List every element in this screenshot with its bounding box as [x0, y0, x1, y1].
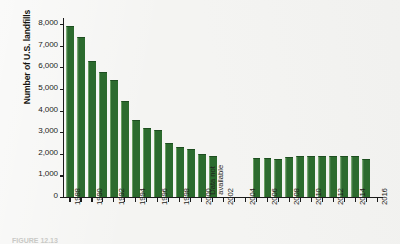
- y-tick-mark: [60, 154, 64, 155]
- x-tick-2014: [355, 198, 356, 202]
- landfills-bar-chart: Number of U.S. landfills 01,0002,0003,00…: [0, 0, 400, 244]
- x-tick-2004: [245, 198, 246, 202]
- x-tick-1998: [179, 198, 180, 202]
- x-tick-2015: [366, 198, 367, 202]
- x-tick-2003: [234, 198, 235, 202]
- x-tick-2000: [201, 198, 202, 202]
- x-tick-2005: [256, 198, 257, 202]
- y-tick-mark: [60, 111, 64, 112]
- y-tick-label: 2,000: [38, 148, 58, 157]
- y-tick-mark: [60, 89, 64, 90]
- y-tick-mark: [60, 24, 64, 25]
- bar-1995: [143, 128, 151, 197]
- y-tick-label: 7,000: [38, 40, 58, 49]
- bar-1991: [99, 72, 107, 197]
- x-tick-1993: [124, 198, 125, 202]
- y-tick-mark: [60, 175, 64, 176]
- x-tick-2012: [333, 198, 334, 202]
- x-tick-1990: [91, 198, 92, 202]
- y-tick-mark: [60, 132, 64, 133]
- plot-area: 01,0002,0003,0004,0005,0006,0007,0008,00…: [64, 18, 382, 197]
- x-tick-1989: [80, 198, 81, 202]
- figure-caption: FIGURE 12.13: [12, 237, 58, 244]
- x-tick-2006: [267, 198, 268, 202]
- annotation-line: available: [218, 165, 226, 195]
- y-axis-title: Number of U.S. landfills: [22, 0, 32, 142]
- y-tick-label: 0: [54, 191, 58, 200]
- x-tick-2008: [289, 198, 290, 202]
- bar-1993: [121, 101, 129, 197]
- x-tick-2013: [344, 198, 345, 202]
- y-tick-mark: [60, 197, 64, 198]
- y-tick-label: 5,000: [38, 83, 58, 92]
- y-tick-mark: [60, 67, 64, 68]
- x-tick-1995: [146, 198, 147, 202]
- x-tick-1994: [135, 198, 136, 202]
- bar-1996: [154, 130, 162, 197]
- x-tick-1988: [69, 198, 70, 202]
- x-tick-1999: [190, 198, 191, 202]
- y-tick-label: 6,000: [38, 61, 58, 70]
- x-tick-label-2016: 2016: [380, 188, 389, 205]
- bar-1992: [110, 80, 118, 197]
- y-tick-label: 8,000: [38, 18, 58, 27]
- x-tick-2011: [322, 198, 323, 202]
- y-tick-label: 4,000: [38, 105, 58, 114]
- x-tick-1991: [102, 198, 103, 202]
- x-tick-2007: [278, 198, 279, 202]
- y-tick-label: 3,000: [38, 126, 58, 135]
- y-tick-mark: [60, 46, 64, 47]
- x-tick-1996: [157, 198, 158, 202]
- x-tick-1992: [113, 198, 114, 202]
- x-tick-2002: [223, 198, 224, 202]
- bar-1989: [77, 37, 85, 197]
- y-tick-label: 1,000: [38, 169, 58, 178]
- bar-1994: [132, 120, 140, 197]
- x-tick-2016: [377, 198, 378, 202]
- bar-1988: [66, 26, 74, 197]
- x-tick-2009: [300, 198, 301, 202]
- x-tick-2001: [212, 198, 213, 202]
- x-tick-1997: [168, 198, 169, 202]
- bar-1990: [88, 61, 96, 197]
- x-tick-2010: [311, 198, 312, 202]
